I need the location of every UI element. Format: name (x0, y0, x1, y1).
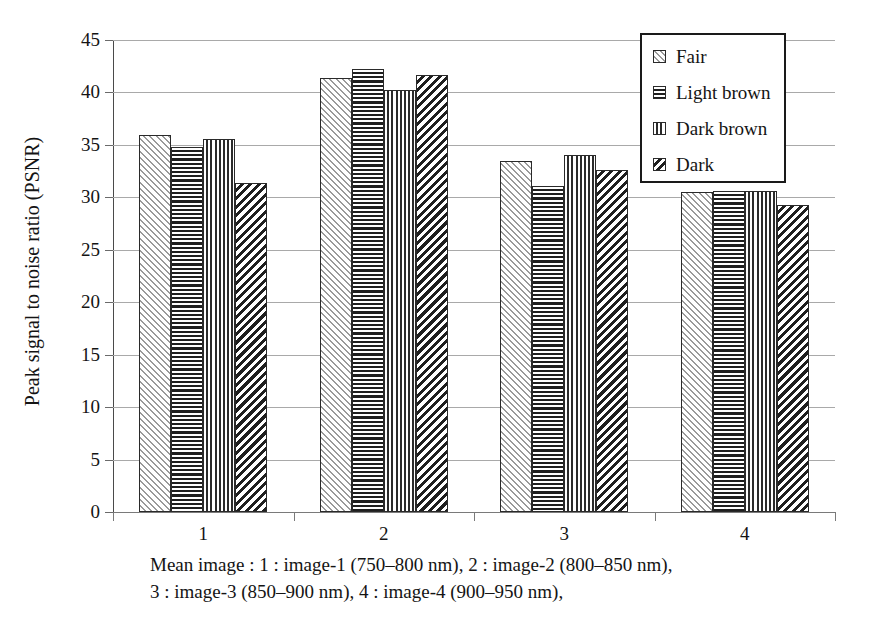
legend-label: Fair (676, 47, 707, 66)
legend-item[interactable]: Dark (653, 153, 714, 175)
y-tick-mark (105, 355, 113, 356)
y-tick-label: 40 (60, 82, 100, 101)
bar[interactable] (532, 186, 564, 512)
x-tick-mark (474, 512, 475, 521)
bar[interactable] (777, 205, 809, 512)
bar[interactable] (500, 161, 532, 512)
caption-line: 3 : image-3 (850–900 nm), 4 : image-4 (9… (150, 578, 770, 605)
y-tick-label: 5 (60, 450, 100, 469)
bar[interactable] (320, 78, 352, 512)
bar[interactable] (384, 90, 416, 512)
y-tick-label: 10 (60, 397, 100, 416)
legend-item[interactable]: Fair (653, 45, 707, 67)
bar[interactable] (203, 139, 235, 512)
y-tick-mark (105, 302, 113, 303)
legend-swatch-icon (653, 122, 666, 135)
bar[interactable] (139, 135, 171, 512)
bar[interactable] (352, 69, 384, 512)
legend-label: Dark brown (676, 119, 767, 138)
y-tick-mark (105, 92, 113, 93)
x-tick-label: 3 (534, 523, 594, 545)
legend-label: Dark (676, 155, 714, 174)
bar[interactable] (171, 147, 203, 512)
y-tick-label: 35 (60, 135, 100, 154)
y-tick-label: 15 (60, 345, 100, 364)
y-tick-mark (105, 40, 113, 41)
legend-item[interactable]: Light brown (653, 81, 770, 103)
y-tick-mark (105, 460, 113, 461)
bar-group (113, 40, 294, 512)
legend-label: Light brown (676, 83, 770, 102)
legend-swatch-icon (653, 158, 666, 171)
y-axis-label: Peak signal to noise ratio (PSNR) (21, 62, 44, 482)
bar[interactable] (235, 183, 267, 512)
legend-item[interactable]: Dark brown (653, 117, 767, 139)
caption-line: Mean image : 1 : image-1 (750–800 nm), 2… (150, 551, 770, 578)
y-tick-mark (105, 145, 113, 146)
x-tick-label: 2 (354, 523, 414, 545)
y-tick-label: 45 (60, 30, 100, 49)
legend-swatch-icon (653, 86, 666, 99)
legend: FairLight brownDark brownDark (640, 33, 786, 183)
bar[interactable] (745, 191, 777, 512)
y-tick-label: 20 (60, 292, 100, 311)
legend-swatch-icon (653, 50, 666, 63)
bar[interactable] (596, 170, 628, 512)
y-tick-label: 0 (60, 502, 100, 521)
bar[interactable] (681, 192, 713, 512)
x-tick-mark (294, 512, 295, 521)
y-tick-mark (105, 250, 113, 251)
x-tick-label: 4 (715, 523, 775, 545)
bar[interactable] (713, 191, 745, 512)
x-tick-mark (835, 512, 836, 521)
figure-caption: Mean image : 1 : image-1 (750–800 nm), 2… (150, 551, 770, 605)
y-tick-mark (105, 197, 113, 198)
bar[interactable] (564, 155, 596, 512)
y-tick-label: 25 (60, 240, 100, 259)
x-tick-mark (113, 512, 114, 521)
bar-group (294, 40, 475, 512)
psnr-bar-chart-figure: Peak signal to noise ratio (PSNR) 454035… (0, 0, 878, 634)
x-tick-mark (655, 512, 656, 521)
bar-group (474, 40, 655, 512)
bar[interactable] (416, 75, 448, 512)
y-tick-mark (105, 512, 113, 513)
y-tick-label: 30 (60, 187, 100, 206)
x-tick-label: 1 (173, 523, 233, 545)
y-tick-mark (105, 407, 113, 408)
